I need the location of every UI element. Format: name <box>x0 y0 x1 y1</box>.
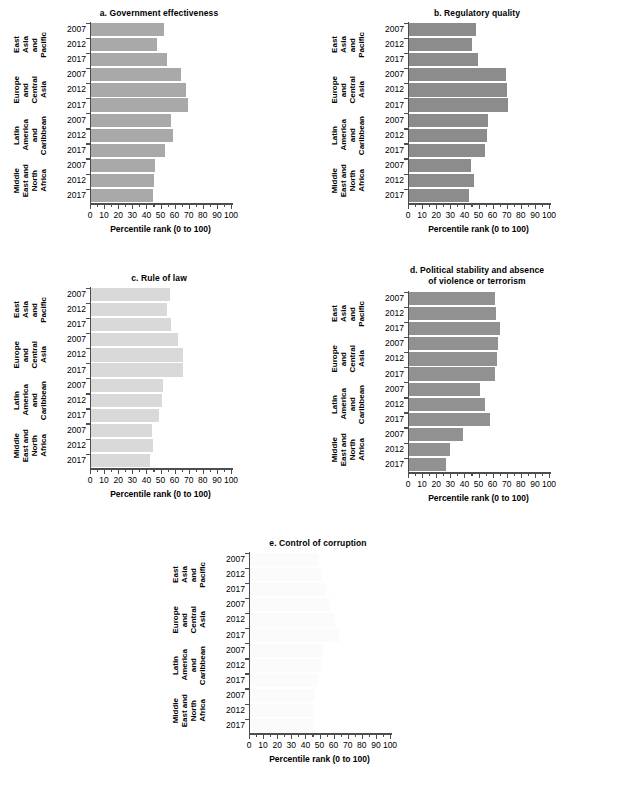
x-tick <box>153 469 154 472</box>
x-tick <box>203 204 204 209</box>
region-label-word: North <box>30 435 39 456</box>
region-label-a-2: LatinAmericaandCaribbean <box>4 113 56 158</box>
year-label: 2007 <box>56 335 86 344</box>
x-tick <box>355 734 356 737</box>
bar-e-0 <box>250 553 319 566</box>
x-tick <box>542 473 543 476</box>
region-label-word: Africa <box>39 434 48 457</box>
region-label-word: and <box>30 303 39 317</box>
region-label-word: Latin <box>171 656 180 675</box>
x-tick <box>348 734 349 739</box>
region-label-word: America <box>180 649 189 681</box>
region-label-c-2: LatinAmericaandCaribbean <box>4 378 56 423</box>
bar-b-10 <box>409 174 474 187</box>
x-tick <box>521 204 522 209</box>
panel-title-a: a. Government effectiveness <box>0 8 318 19</box>
region-label-word: Latin <box>330 395 339 414</box>
region-label-e-3: MiddleEast andNorthAfrica <box>163 688 215 733</box>
region-label-word: Latin <box>330 126 339 145</box>
x-tick <box>514 204 515 207</box>
bar-d-10 <box>409 443 450 456</box>
bar-e-10 <box>250 704 313 717</box>
x-tick <box>549 473 550 478</box>
region-label-word: and <box>180 613 189 627</box>
year-label: 2017 <box>215 631 245 640</box>
x-tick <box>429 204 430 207</box>
year-label: 2012 <box>56 305 86 314</box>
region-label-word: Asia <box>357 350 366 367</box>
x-tick-label: 100 <box>380 740 400 750</box>
x-tick <box>493 204 494 209</box>
bar-c-10 <box>91 439 153 452</box>
x-tick <box>471 473 472 476</box>
year-label: 2017 <box>374 460 404 469</box>
y-axis-line <box>90 287 91 468</box>
region-label-word: Pacific <box>357 301 366 327</box>
y-axis-line <box>408 291 409 472</box>
year-label: 2012 <box>56 441 86 450</box>
region-label-b-2: LatinAmericaandCaribbean <box>322 113 374 158</box>
region-label-word: Central <box>30 76 39 104</box>
region-label-word: East <box>12 36 21 53</box>
x-tick <box>203 469 204 474</box>
year-label: 2007 <box>56 116 86 125</box>
year-label: 2007 <box>374 385 404 394</box>
x-tick <box>457 204 458 207</box>
year-label: 2012 <box>374 400 404 409</box>
bar-a-3 <box>91 68 181 81</box>
x-tick <box>514 473 515 476</box>
region-label-word: East and <box>339 433 348 466</box>
region-label-a-3: MiddleEast andNorthAfrica <box>4 158 56 203</box>
bar-e-3 <box>250 598 330 611</box>
region-label-word: and <box>348 307 357 321</box>
region-label-word: East and <box>21 164 30 197</box>
x-tick <box>493 473 494 478</box>
year-label: 2007 <box>374 430 404 439</box>
x-tick <box>320 734 321 739</box>
year-label: 2007 <box>215 600 245 609</box>
bar-a-10 <box>91 174 154 187</box>
bar-e-7 <box>250 659 321 672</box>
x-tick <box>256 734 257 737</box>
bar-c-4 <box>91 348 183 361</box>
region-label-word: Asia <box>339 36 348 53</box>
x-tick-label: 100 <box>539 479 559 489</box>
year-label: 2007 <box>374 70 404 79</box>
bar-a-6 <box>91 114 171 127</box>
x-tick <box>161 469 162 474</box>
panel-title-line-2: of violence or terrorism <box>318 276 636 287</box>
bar-d-1 <box>409 307 496 320</box>
region-label-word: Caribbean <box>39 116 48 155</box>
x-tick <box>369 734 370 737</box>
x-tick <box>464 473 465 478</box>
panel-d: d. Political stability and absenceof vio… <box>318 265 636 287</box>
region-label-word: Latin <box>12 391 21 410</box>
x-tick <box>327 734 328 737</box>
region-label-word: and <box>30 128 39 142</box>
x-tick <box>161 204 162 209</box>
region-label-word: Africa <box>198 699 207 722</box>
x-tick <box>168 204 169 207</box>
x-tick <box>139 204 140 207</box>
year-label: 2017 <box>215 721 245 730</box>
region-label-word: and <box>30 38 39 52</box>
region-label-word: Pacific <box>357 32 366 58</box>
x-tick <box>528 473 529 476</box>
x-tick <box>284 734 285 737</box>
x-tick <box>457 473 458 476</box>
bar-d-9 <box>409 428 463 441</box>
year-label: 2017 <box>56 366 86 375</box>
bar-d-6 <box>409 383 480 396</box>
x-tick <box>535 473 536 478</box>
region-label-b-0: EastAsiaandPacific <box>322 22 374 67</box>
x-tick <box>464 204 465 209</box>
region-label-word: and <box>348 38 357 52</box>
x-tick <box>500 204 501 207</box>
year-label: 2012 <box>374 131 404 140</box>
x-tick <box>341 734 342 737</box>
year-label: 2007 <box>56 381 86 390</box>
x-tick <box>479 473 480 478</box>
region-label-a-1: EuropeandCentralAsia <box>4 67 56 112</box>
x-tick <box>210 469 211 472</box>
x-tick <box>500 473 501 476</box>
